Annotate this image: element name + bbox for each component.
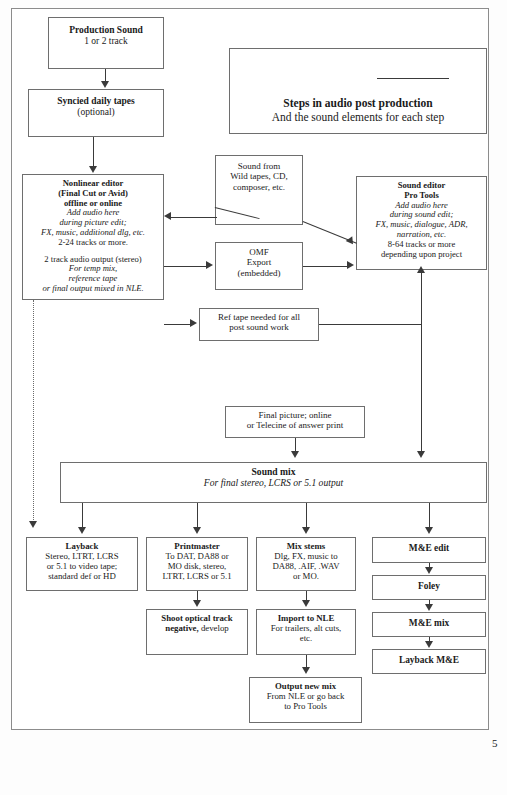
node-sound-editor-pro-tools[interactable]: Sound editorPro ToolsAdd audio heredurin… (356, 176, 487, 270)
node-line: Foley (375, 581, 483, 592)
node-nonlinear-editor[interactable]: Nonlinear editor(Final Cut or Avid)offli… (22, 174, 164, 300)
node-line: 2-24 tracks or more. (25, 238, 161, 248)
arrowhead-soundmix-right (417, 451, 425, 458)
node-line: OMF (218, 247, 300, 257)
node-line: or final output mixed in NLE. (25, 284, 161, 294)
node-line: Shoot optical track (149, 613, 245, 623)
connector-nle-dotted-to-layback (33, 300, 34, 522)
connector-wild-to-nle-h (171, 217, 217, 218)
node-line: Layback M&E (375, 655, 483, 666)
node-line: Wild tapes, CD, (218, 171, 300, 181)
arrowhead-foley (425, 567, 433, 574)
node-line: Export (218, 257, 300, 267)
connector-nle-to-reftape (164, 324, 192, 325)
node-line: Stereo, LTRT, LCRS (29, 551, 135, 561)
page-number: 5 (492, 737, 498, 749)
arrowhead-layback-dotted (29, 521, 37, 528)
node-line: Import to NLE (259, 613, 353, 623)
node-line: post sound work (202, 322, 316, 332)
node-line: Production Sound (51, 25, 161, 36)
arrowhead-printmaster (193, 527, 201, 534)
connector-soundmix-bus-printmaster (197, 503, 198, 528)
connector-soundmix-bus-layback (82, 503, 83, 528)
node-line: negative, develop (149, 623, 245, 633)
node-ref-tape[interactable]: Ref tape needed for allpost sound work (199, 308, 319, 341)
node-line: M&E edit (375, 543, 483, 554)
arrowhead-memix (425, 604, 433, 611)
node-line: Dlg, FX, music to (259, 551, 353, 561)
node-syncied-daily-tapes[interactable]: Syncied daily tapes(optional) (28, 89, 164, 137)
node-line: or 5.1 to video tape; (29, 561, 135, 571)
arrowhead-nle (89, 166, 97, 173)
connector-nle-to-omf (164, 266, 208, 267)
arrowhead-protools-omf (347, 261, 354, 269)
node-output-new-mix[interactable]: Output new mixFrom NLE or go backto Pro … (249, 677, 362, 723)
node-line: LTRT, LCRS or 5.1 (149, 571, 245, 581)
node-sound-from-wild-tapes[interactable]: Sound fromWild tapes, CD,composer, etc. (215, 155, 303, 225)
arrowhead-mixstems (302, 527, 310, 534)
arrowhead-outputnewmix (302, 667, 310, 674)
arrowhead-omf (206, 261, 213, 269)
node-line: to Pro Tools (252, 701, 359, 711)
node-production-sound[interactable]: Production Sound1 or 2 track (48, 17, 164, 69)
connector-protools-to-soundmix (421, 270, 422, 452)
node-line: 1 or 2 track (51, 36, 161, 47)
node-shoot-optical[interactable]: Shoot optical tracknegative, develop (146, 609, 248, 655)
node-line: Sound from (218, 161, 300, 171)
title-rule (377, 78, 449, 79)
arrowhead-import (302, 600, 310, 607)
node-foley[interactable]: Foley (372, 575, 486, 600)
node-line: DA88, .AIF, .WAV (259, 561, 353, 571)
node-line: Output new mix (252, 681, 359, 691)
node-line: Mix stems (259, 541, 353, 551)
node-import-to-nle[interactable]: Import to NLEFor trailers, alt cuts,etc. (256, 609, 356, 655)
arrowhead-reftape (190, 319, 197, 327)
connector-reftape-right (319, 324, 422, 325)
node-line: depending upon project (359, 250, 484, 260)
title-text-block: Steps in audio post production And the s… (229, 96, 487, 124)
node-line: Ref tape needed for all (202, 312, 316, 322)
node-line: or MO. (259, 571, 353, 581)
arrowhead-nle-left (164, 212, 171, 220)
title-line-1: Steps in audio post production (229, 96, 487, 110)
node-line: (embedded) (218, 268, 300, 278)
node-printmaster[interactable]: PrintmasterTo DAT, DA88 orMO disk, stere… (146, 537, 248, 591)
node-final-picture[interactable]: Final picture; onlineor Telecine of answ… (225, 406, 365, 438)
connector-omf-to-protools (303, 266, 349, 267)
connector-soundmix-bus-meedit (429, 503, 430, 528)
node-me-mix[interactable]: M&E mix (372, 612, 486, 637)
node-mix-stems[interactable]: Mix stemsDlg, FX, music toDA88, .AIF, .W… (256, 537, 356, 591)
arrowhead-optical (193, 600, 201, 607)
node-line: standard def or HD (29, 571, 135, 581)
node-line: MO disk, stereo, (149, 561, 245, 571)
node-line: To DAT, DA88 or (149, 551, 245, 561)
node-line: Syncied daily tapes (31, 96, 161, 107)
node-line: M&E mix (375, 618, 483, 629)
arrowhead-soundmix-center (291, 451, 299, 458)
arrowhead-laybackme (425, 641, 433, 648)
node-me-edit[interactable]: M&E edit (372, 537, 486, 563)
node-line-spacer (25, 294, 161, 300)
node-line: (optional) (31, 107, 161, 118)
arrowhead-meedit (425, 527, 433, 534)
node-line: etc. (259, 633, 353, 643)
arrowhead-syncied (101, 81, 109, 88)
node-line: For trailers, alt cuts, (259, 623, 353, 633)
printed-page: Steps in audio post production And the s… (0, 0, 507, 795)
node-line: For final stereo, LCRS or 5.1 output (63, 478, 484, 489)
node-line: Layback (29, 541, 135, 551)
node-line: Printmaster (149, 541, 245, 551)
node-layback[interactable]: LaybackStereo, LTRT, LCRSor 5.1 to video… (26, 537, 138, 591)
node-line: or Telecine of answer print (228, 420, 362, 430)
node-layback-me[interactable]: Layback M&E (372, 649, 486, 674)
node-sound-mix[interactable]: Sound mixFor final stereo, LCRS or 5.1 o… (60, 462, 487, 503)
node-line: From NLE or go back (252, 691, 359, 701)
arrowhead-layback (78, 527, 86, 534)
connector-soundmix-bus-mixstems (306, 503, 307, 528)
connector-syncied-to-nle (93, 137, 94, 166)
node-omf-export[interactable]: OMFExport(embedded) (215, 242, 303, 290)
title-line-2: And the sound elements for each step (229, 110, 487, 124)
node-line: composer, etc. (218, 182, 300, 192)
node-line: Final picture; online (228, 410, 362, 420)
